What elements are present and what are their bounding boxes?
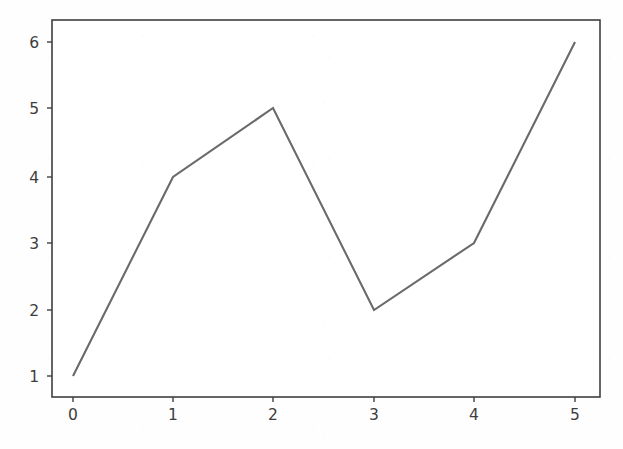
y-tick-label: 6: [29, 34, 39, 52]
x-axis-tick-labels: 0 1 2 3 4 5: [68, 406, 580, 424]
x-tick-label: 2: [268, 406, 278, 424]
line-chart: 0 1 2 3 4 5 1 2 3 4 5 6: [0, 0, 623, 449]
x-tick-label: 4: [469, 406, 479, 424]
y-tick-label: 2: [29, 302, 39, 320]
x-tick-label: 0: [68, 406, 78, 424]
y-tick-label: 4: [29, 169, 39, 187]
y-tick-label: 1: [29, 368, 39, 386]
x-tick-label: 1: [168, 406, 178, 424]
x-tick-label: 5: [570, 406, 580, 424]
x-tick-label: 3: [369, 406, 379, 424]
y-tick-label: 3: [29, 235, 39, 253]
y-axis-tick-labels: 1 2 3 4 5 6: [29, 34, 39, 386]
plot-area-background: [52, 20, 600, 397]
y-tick-label: 5: [29, 100, 39, 118]
figure-canvas: 0 1 2 3 4 5 1 2 3 4 5 6: [0, 0, 623, 449]
